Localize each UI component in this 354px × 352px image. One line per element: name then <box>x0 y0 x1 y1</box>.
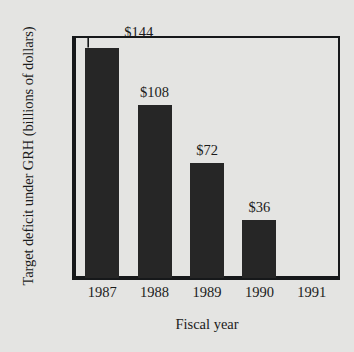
x-tick-label: 1990 <box>232 284 286 301</box>
x-tick-label: 1991 <box>285 284 339 301</box>
x-tick-label: 1989 <box>180 284 234 301</box>
x-axis-title: Fiscal year <box>72 316 342 333</box>
y-axis-title: Target deficit under GRH (billions of do… <box>17 11 39 301</box>
x-tick-label: 1988 <box>128 284 182 301</box>
bar-value-label: $72 <box>177 142 237 159</box>
bar[interactable] <box>190 163 224 278</box>
bar-value-label: $36 <box>229 199 289 216</box>
bar-chart-figure: Target deficit under GRH (billions of do… <box>0 0 354 352</box>
bar-slot <box>76 38 128 278</box>
bar[interactable] <box>85 48 119 278</box>
x-axis-tick-labels: 19871988198919901991 <box>72 284 340 306</box>
bar[interactable] <box>242 220 276 278</box>
bar-value-label: $108 <box>125 84 185 101</box>
bar-slot <box>286 38 338 278</box>
bar-slot <box>233 38 285 278</box>
bar[interactable] <box>138 105 172 278</box>
x-tick-label: 1987 <box>75 284 129 301</box>
bar-slot <box>128 38 180 278</box>
plot-area: $144$108$72$36 <box>76 38 338 278</box>
